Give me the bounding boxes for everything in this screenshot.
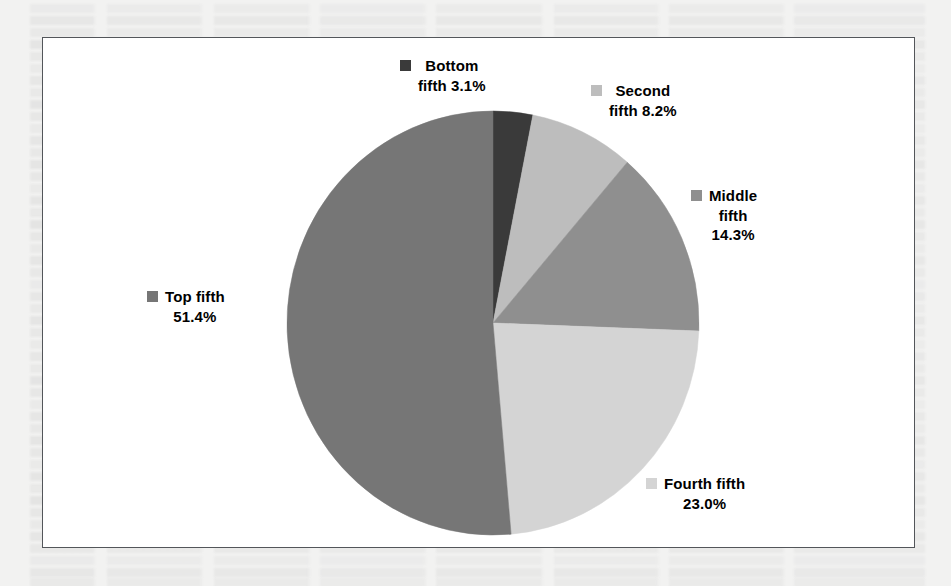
pie-label-second-fifth-text: Second fifth 8.2% <box>609 81 677 120</box>
background-text-line <box>30 16 925 25</box>
pie-label-middle-fifth-text: Middle fifth 14.3% <box>709 186 757 245</box>
chart-figure-frame: Bottom fifth 3.1% Second fifth 8.2% Midd… <box>42 37 915 548</box>
pie-label-bottom-fifth: Bottom fifth 3.1% <box>400 56 486 95</box>
legend-swatch-bottom-fifth <box>400 60 411 71</box>
pie-label-top-fifth: Top fifth 51.4% <box>147 287 225 326</box>
pie-slice-group <box>287 111 699 535</box>
background-text-line <box>30 578 925 586</box>
background-text-line <box>30 4 925 13</box>
pie-label-top-fifth-text: Top fifth 51.4% <box>165 287 225 326</box>
legend-swatch-middle-fifth <box>691 190 702 201</box>
pie-slice-top-fifth <box>287 111 511 535</box>
background-text-line <box>30 28 925 37</box>
pie-label-middle-fifth: Middle fifth 14.3% <box>691 186 757 245</box>
legend-swatch-fourth-fifth <box>646 478 657 489</box>
background-text-line <box>30 556 925 565</box>
background-text-line <box>30 568 925 577</box>
pie-label-fourth-fifth: Fourth fifth 23.0% <box>646 474 745 513</box>
legend-swatch-top-fifth <box>147 291 158 302</box>
legend-swatch-second-fifth <box>591 85 602 96</box>
pie-label-bottom-fifth-text: Bottom fifth 3.1% <box>418 56 486 95</box>
pie-label-fourth-fifth-text: Fourth fifth 23.0% <box>664 474 745 513</box>
pie-label-second-fifth: Second fifth 8.2% <box>591 81 677 120</box>
